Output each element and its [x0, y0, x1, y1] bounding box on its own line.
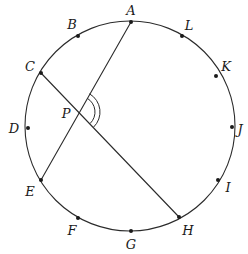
- point-label-p: P: [62, 107, 71, 120]
- point-label-e: E: [25, 185, 35, 198]
- point-label-c: C: [25, 60, 35, 73]
- circle-outline: [25, 21, 235, 231]
- angle-marker-group: [87, 94, 100, 127]
- point-label-i: I: [225, 181, 230, 194]
- point-label-a: A: [126, 4, 135, 17]
- point-label-b: B: [67, 18, 77, 31]
- chord-A-E: [41, 22, 131, 180]
- point-dot-a: [129, 20, 133, 24]
- chord-C-H: [41, 73, 179, 217]
- point-label-f: F: [67, 224, 76, 237]
- angle-arc-1: [87, 98, 95, 123]
- point-dot-i: [216, 178, 220, 182]
- point-label-h: H: [182, 224, 193, 237]
- geometry-figure: ABCDEFGHIJKLP: [0, 0, 248, 254]
- point-label-g: G: [126, 238, 136, 251]
- point-dot-l: [180, 34, 184, 38]
- point-dot-d: [26, 126, 30, 130]
- point-dot-k: [214, 74, 218, 78]
- circle-outline-group: [25, 21, 235, 231]
- point-label-k: K: [221, 60, 231, 73]
- point-label-d: D: [9, 122, 19, 135]
- point-label-j: J: [237, 123, 242, 136]
- point-dot-f: [76, 216, 80, 220]
- point-dot-b: [76, 34, 80, 38]
- point-dot-h: [177, 215, 181, 219]
- geometry-canvas: [0, 0, 248, 254]
- point-label-l: L: [185, 19, 194, 32]
- point-dot-c: [39, 71, 43, 75]
- point-dot-g: [129, 229, 133, 233]
- point-dot-j: [230, 125, 234, 129]
- point-dot-e: [39, 178, 43, 182]
